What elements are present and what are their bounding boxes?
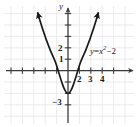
y-tick-label-2: 2 <box>58 44 63 53</box>
y-tick-label-neg3: −3 <box>52 98 62 107</box>
equation-label: y=x2−2 <box>90 45 116 56</box>
y-axis-label: y <box>59 2 63 11</box>
y-tick-label-1: 1 <box>59 55 64 64</box>
graph-figure: y 2 1 −3 2 3 4 y=x2−2 <box>0 0 137 127</box>
equation-constant: 2 <box>111 46 116 56</box>
x-tick-label-3: 3 <box>88 75 93 84</box>
coordinate-plane-svg <box>0 0 137 127</box>
x-tick-label-2: 2 <box>77 75 82 84</box>
x-tick-label-4: 4 <box>100 75 105 84</box>
grid-lines <box>4 6 134 124</box>
